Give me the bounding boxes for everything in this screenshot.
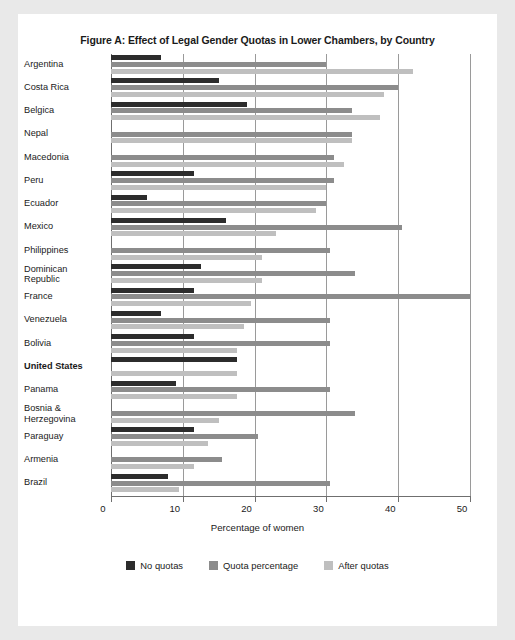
bar <box>111 381 176 386</box>
bar <box>111 481 330 486</box>
bar-group <box>111 124 470 147</box>
bar <box>111 231 276 236</box>
bar-group <box>111 240 470 263</box>
country-label: Costa Rica <box>18 82 99 93</box>
bar <box>111 271 355 276</box>
bar <box>111 218 226 223</box>
country-label: Panama <box>18 384 99 395</box>
bar <box>111 278 262 283</box>
x-tick-label: 10 <box>170 503 181 514</box>
x-tick <box>398 496 399 502</box>
legend-swatch-icon <box>126 561 135 570</box>
bar <box>111 55 161 60</box>
bar <box>111 208 316 213</box>
bar <box>111 171 194 176</box>
bar-group <box>111 426 470 449</box>
bar-group <box>111 333 470 356</box>
bar <box>111 201 326 206</box>
bar <box>111 62 326 67</box>
country-label: Bosnia & Herzegovina <box>18 403 99 424</box>
bar <box>111 487 179 492</box>
country-label: Mexico <box>18 221 99 232</box>
bar <box>111 288 194 293</box>
legend-swatch-icon <box>209 561 218 570</box>
country-label: Brazil <box>18 477 99 488</box>
bar <box>111 108 352 113</box>
bar <box>111 294 470 299</box>
chart-legend: No quotasQuota percentageAfter quotas <box>18 560 497 571</box>
plot-area <box>111 54 470 496</box>
bar-group <box>111 380 470 403</box>
bar-group <box>111 449 470 472</box>
legend-item: No quotas <box>126 560 183 571</box>
bar <box>111 92 384 97</box>
bar-group <box>111 310 470 333</box>
bar-group <box>111 263 470 286</box>
x-tick <box>111 496 112 502</box>
bar <box>111 418 219 423</box>
x-tick-label: 50 <box>457 503 468 514</box>
bar <box>111 185 326 190</box>
bar <box>111 85 398 90</box>
bar-group <box>111 54 470 77</box>
country-label: Venezuela <box>18 314 99 325</box>
bar <box>111 255 262 260</box>
x-tick-label: 40 <box>385 503 396 514</box>
bar <box>111 334 194 339</box>
x-tick <box>326 496 327 502</box>
bar <box>111 441 208 446</box>
bar <box>111 162 344 167</box>
country-label: Peru <box>18 175 99 186</box>
bar-group <box>111 170 470 193</box>
country-axis-labels: ArgentinaCosta RicaBelgicaNepalMacedonia… <box>18 54 106 496</box>
bar <box>111 348 237 353</box>
bar <box>111 248 330 253</box>
country-label: Armenia <box>18 454 99 465</box>
bar <box>111 132 352 137</box>
legend-label: No quotas <box>140 560 183 571</box>
x-tick <box>470 496 471 502</box>
chart-title: Figure A: Effect of Legal Gender Quotas … <box>18 34 497 46</box>
x-tick <box>255 496 256 502</box>
country-label: France <box>18 291 99 302</box>
bar <box>111 225 402 230</box>
bar <box>111 387 330 392</box>
bar <box>111 301 251 306</box>
x-tick-label: 0 <box>100 503 105 514</box>
bar <box>111 318 330 323</box>
country-label: Bolivia <box>18 338 99 349</box>
bar <box>111 357 237 362</box>
legend-item: After quotas <box>324 560 389 571</box>
country-label: Macedonia <box>18 152 99 163</box>
x-tick-label: 30 <box>313 503 324 514</box>
x-tick <box>183 496 184 502</box>
bar-group <box>111 403 470 426</box>
bar <box>111 394 237 399</box>
bar <box>111 474 168 479</box>
bar-group <box>111 101 470 124</box>
bar-group <box>111 356 470 379</box>
country-label: Philippines <box>18 245 99 256</box>
bar <box>111 264 201 269</box>
legend-label: After quotas <box>338 560 389 571</box>
country-label: Dominican Republic <box>18 264 99 285</box>
country-label: United States <box>18 361 99 372</box>
gridline-50 <box>470 54 471 496</box>
bar-group <box>111 194 470 217</box>
country-label: Ecuador <box>18 198 99 209</box>
x-axis-line <box>111 496 470 497</box>
x-axis-title: Percentage of women <box>18 522 497 533</box>
bar <box>111 411 355 416</box>
bar <box>111 178 334 183</box>
figure-root: Figure A: Effect of Legal Gender Quotas … <box>0 0 515 640</box>
bar <box>111 371 237 376</box>
bar <box>111 78 219 83</box>
bar-group <box>111 287 470 310</box>
bar <box>111 464 194 469</box>
bar <box>111 324 244 329</box>
bar-group <box>111 217 470 240</box>
x-tick-label: 20 <box>241 503 252 514</box>
bar <box>111 457 222 462</box>
bar-group <box>111 473 470 496</box>
bar <box>111 115 380 120</box>
